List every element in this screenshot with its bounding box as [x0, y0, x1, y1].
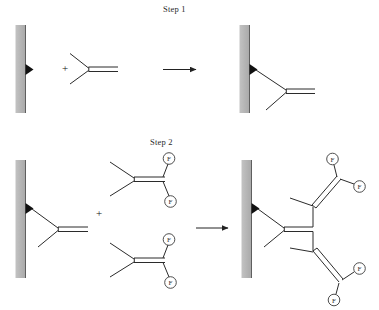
f-monomer-bottom-bond-to-f-upper [163, 245, 168, 258]
step2-active-site-triangle [26, 203, 34, 214]
fluorine-label-text: F [358, 265, 362, 273]
fluorine-label-text: F [331, 156, 335, 164]
fluorine-label-circle: F [163, 153, 175, 165]
fluorine-label-circle: F [327, 153, 339, 165]
upper-branch-double-bond-line-1 [312, 176, 337, 205]
fluorinated-monomer-bottom: F F [110, 234, 176, 289]
lower-branch-bond-to-f-a [342, 272, 354, 280]
fluorine-label-circle: F [165, 277, 177, 289]
product-bond-surface-to-backbone [258, 209, 284, 228]
product-methyl-lower [266, 93, 286, 111]
step2-product-active-site-triangle [252, 203, 260, 214]
step2-methyl-lower [38, 231, 58, 248]
fluorine-label-text: F [167, 155, 171, 163]
fluorine-label-circle: F [328, 294, 340, 306]
f-monomer-bottom-bond-to-f-lower [163, 263, 169, 278]
product-active-site-triangle [250, 64, 258, 75]
fluorine-label-text: F [169, 279, 173, 287]
fluorine-label-circle: F [354, 181, 366, 193]
f-monomer-bottom-methyl-lower [110, 262, 134, 277]
reaction-scheme-figure: Step 1 + Step 2 + [0, 0, 379, 310]
step-2-reactant-surface-alkene [16, 160, 89, 278]
fluorine-label-circle: F [354, 263, 366, 275]
f-monomer-top-bond-to-f-lower [163, 182, 169, 197]
step-1-reactant-surface [16, 25, 34, 113]
product-lower-fluorinated-branch: F F [290, 248, 365, 306]
f-monomer-top-methyl-upper [110, 162, 134, 178]
reaction-scheme-drawing: F F F F [0, 0, 379, 310]
fluorinated-monomer-top: F F [110, 153, 176, 208]
step-1-product [240, 25, 316, 113]
product-substrate-bar [240, 25, 250, 113]
lower-branch-double-bond-cap [313, 248, 317, 251]
upper-branch-bond-to-f-a [334, 165, 337, 177]
active-site-triangle [26, 64, 34, 75]
step2-product-substrate-bar [242, 160, 252, 278]
f-monomer-bottom-methyl-upper [110, 243, 134, 259]
step2-bond-surface-to-carbon [32, 209, 58, 228]
product-upper-fluorinated-branch: F F [290, 153, 365, 208]
step2-substrate-bar [16, 160, 26, 278]
step-1-monomer [70, 54, 118, 85]
lower-branch-bond-to-f-b [336, 283, 339, 294]
substrate-bar [16, 25, 26, 113]
fluorine-label-text: F [167, 236, 171, 244]
lower-branch-double-bond-line-1 [313, 251, 339, 282]
step-2-product-branched-polymer: F F F [242, 153, 366, 306]
fluorine-label-text: F [169, 198, 173, 206]
upper-branch-methyl [290, 198, 313, 206]
f-monomer-top-bond-to-f-upper [163, 164, 168, 177]
upper-branch-double-bond-line-2 [316, 179, 341, 208]
lower-branch-methyl [290, 248, 313, 252]
f-monomer-top-methyl-lower [110, 181, 134, 196]
fluorine-label-text: F [332, 297, 336, 305]
fluorine-label-circle: F [165, 196, 177, 208]
lower-branch-double-bond-line-2 [317, 248, 343, 279]
upper-branch-bond-to-f-b [340, 179, 354, 184]
monomer-methyl-upper [70, 54, 89, 69]
fluorine-label-text: F [358, 183, 362, 191]
monomer-methyl-lower [70, 71, 89, 85]
product-bond-surface-to-carbon [256, 70, 286, 90]
fluorine-label-circle: F [163, 234, 175, 246]
product-backbone-methyl [264, 231, 284, 248]
